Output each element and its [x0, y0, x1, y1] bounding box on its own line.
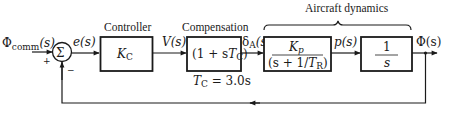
- compensation-title: Compensation: [182, 21, 249, 34]
- summing-junction: Σ: [53, 43, 72, 62]
- input-label: Φcomm(s): [2, 36, 55, 52]
- block-diagram: Φcomm(s) + Σ − e(s) Controller KC V(s) C…: [0, 0, 455, 113]
- integrator-denominator: s: [384, 56, 390, 70]
- plus-sign: +: [43, 56, 51, 66]
- integrator-numerator: 1: [383, 40, 391, 54]
- error-label: e(s): [73, 35, 96, 49]
- sigma-icon: Σ: [56, 46, 64, 60]
- roll-rate-label: p(s): [334, 35, 358, 49]
- controller-title: Controller: [104, 21, 151, 33]
- controller-output-label: V(s): [162, 35, 187, 49]
- output-label: Φ(s): [416, 35, 441, 49]
- svg-text:Φcomm(s): Φcomm(s): [2, 36, 55, 52]
- minus-sign: −: [67, 65, 75, 75]
- aircraft-dynamics-brace: [264, 21, 411, 30]
- compensation-time-constant: TC = 3.0s: [193, 74, 251, 89]
- aircraft-dynamics-title: Aircraft dynamics: [305, 2, 389, 15]
